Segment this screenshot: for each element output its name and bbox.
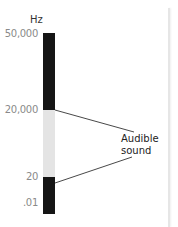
leader-line-lower xyxy=(55,157,132,183)
leader-lines xyxy=(0,0,178,227)
annotation-label-line1: Audible xyxy=(121,133,159,144)
annotation-label-line2: sound xyxy=(121,145,151,156)
leader-line-upper xyxy=(55,110,134,132)
